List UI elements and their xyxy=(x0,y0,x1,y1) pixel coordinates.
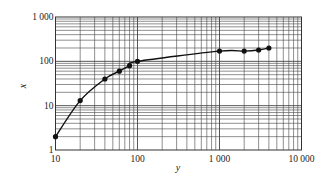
log-log-chart: 101001 00010 0001101001 000 y x xyxy=(0,0,328,185)
grid-lines xyxy=(56,17,302,150)
data-point xyxy=(53,134,58,139)
y-tick-label: 100 xyxy=(39,56,54,66)
x-tick-label: 1 000 xyxy=(209,154,231,164)
data-point xyxy=(266,45,271,50)
data-point xyxy=(78,98,83,103)
y-tick-label: 10 xyxy=(44,101,54,111)
data-point xyxy=(127,63,132,68)
data-point xyxy=(256,47,261,52)
x-tick-label: 10 000 xyxy=(288,154,314,164)
data-point xyxy=(102,76,107,81)
data-point xyxy=(135,59,140,64)
plot-frame xyxy=(56,17,302,150)
data-point xyxy=(242,49,247,54)
data-point xyxy=(217,49,222,54)
x-axis-label: y xyxy=(175,162,181,173)
data-point xyxy=(117,69,122,74)
x-tick-label: 100 xyxy=(130,154,145,164)
y-tick-label: 1 000 xyxy=(32,12,54,22)
y-tick-label: 1 xyxy=(49,145,54,155)
y-axis-label: x xyxy=(17,83,28,89)
x-tick-label: 10 xyxy=(51,154,61,164)
